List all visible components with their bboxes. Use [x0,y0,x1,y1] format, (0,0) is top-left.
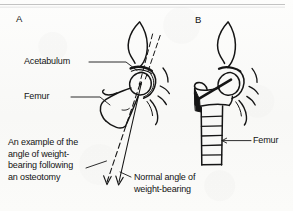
greater-trochanter-b [198,83,207,90]
ischial-ramus-b [239,100,247,125]
acetabulum-label: Acetabulum [24,56,70,68]
ischial-ramus-inner-b [236,102,242,116]
ischium-fragment-mid [160,86,169,94]
acetabulum-roof-b [219,67,240,71]
femur-medial-curve-b [229,96,232,105]
ischial-ramus [150,100,158,125]
figure-container: A B Acetabulum Femur An example of the a… [0,0,293,211]
femur-inferior-border-b [200,104,229,106]
ischium-fragment-lower [158,96,166,105]
shaft-band-4 [202,145,222,146]
ischium-fragment-lower-b [247,96,255,105]
ilium-outline [128,22,139,63]
femur-label-a: Femur [24,91,49,103]
shaft-band-1 [201,116,222,117]
femur-label-b: Femur [253,135,278,147]
ilium-outline-b [218,22,228,63]
ischium-fragment-mid-b [249,86,258,94]
osteotomy-angle-caption: An example of the angle of weight- beari… [8,137,78,183]
shaft-band-3 [202,135,223,136]
osteotomy-caption-leader-line [86,161,107,168]
normal-angle-caption: Normal angle of weight-bearing [134,172,195,195]
shaft-band-2 [201,126,222,127]
panel-b-drawing [195,22,259,165]
ilium-inner-contour-b [228,22,236,67]
femoral-shaft-lateral [106,121,126,128]
panel-a-drawing [71,22,169,185]
pubis-fragment-upper-b [252,68,257,82]
top-rule [0,5,285,8]
panel-a-letter: A [16,13,22,25]
normal-caption-leader-line [120,172,131,177]
osteotomy-wedge [195,89,200,107]
ischial-ramus-inner [147,101,153,115]
greater-trochanter [103,90,117,95]
pubis-fragment-upper [163,68,168,82]
lesser-trochanter [122,108,129,110]
femoral-head-b [218,72,240,95]
normal-angle-line [116,82,142,185]
panel-b-letter: B [195,14,201,26]
